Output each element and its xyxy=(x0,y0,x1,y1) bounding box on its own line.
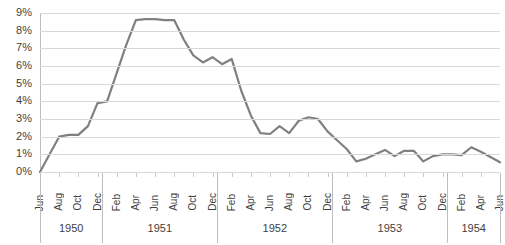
month-tick-mark xyxy=(78,173,79,177)
year-separator xyxy=(102,173,103,243)
month-tick-mark xyxy=(117,173,118,177)
month-tick-label: Aug xyxy=(54,193,64,211)
month-tick-label: Oct xyxy=(418,195,428,211)
month-tick-label: Aug xyxy=(284,193,294,211)
month-tick-mark xyxy=(347,173,348,177)
y-axis-tick-label: 2% xyxy=(16,131,32,142)
month-tick-mark xyxy=(385,173,386,177)
y-axis-tick-label: 1% xyxy=(16,148,32,159)
month-tick-mark xyxy=(136,173,137,177)
month-tick-mark xyxy=(289,173,290,177)
y-axis-tick-label: 0% xyxy=(16,166,32,177)
gridline xyxy=(40,154,500,155)
gridline xyxy=(40,13,500,14)
year-group-label: 1950 xyxy=(40,213,102,243)
month-tick-label: Dec xyxy=(323,193,333,211)
month-tick-label: Apr xyxy=(246,195,256,211)
series-line xyxy=(40,13,500,172)
year-group-label: 1952 xyxy=(217,213,332,243)
year-group-label: 1953 xyxy=(332,213,447,243)
month-tick-mark xyxy=(232,173,233,177)
month-tick-mark xyxy=(328,173,329,177)
month-tick-mark xyxy=(481,173,482,177)
chart-container: 0%1%2%3%4%5%6%7%8%9% JunAugOctDecFebAprJ… xyxy=(0,0,505,245)
gridline xyxy=(40,119,500,120)
month-tick-mark xyxy=(462,173,463,177)
month-tick-mark xyxy=(193,173,194,177)
y-axis: 0%1%2%3%4%5%6%7%8%9% xyxy=(0,0,36,180)
gridline xyxy=(40,48,500,49)
month-tick-label: Oct xyxy=(303,195,313,211)
year-axis: 19501951195219531954 xyxy=(40,213,500,243)
month-tick-mark xyxy=(423,173,424,177)
month-tick-mark xyxy=(174,173,175,177)
month-tick-mark xyxy=(251,173,252,177)
year-group-label: 1951 xyxy=(102,213,217,243)
month-tick-label: Jun xyxy=(265,195,275,211)
year-separator xyxy=(40,173,41,243)
month-tick-label: Dec xyxy=(93,193,103,211)
year-separator xyxy=(332,173,333,243)
month-tick-mark xyxy=(59,173,60,177)
month-tick-label: Dec xyxy=(438,193,448,211)
month-tick-mark xyxy=(308,173,309,177)
month-tick-label: Feb xyxy=(112,194,122,211)
gridline xyxy=(40,137,500,138)
month-tick-label: Jun xyxy=(380,195,390,211)
month-tick-mark xyxy=(98,173,99,177)
month-tick-label: Apr xyxy=(361,195,371,211)
month-axis: JunAugOctDecFebAprJunAugOctDecFebAprJunA… xyxy=(40,173,500,213)
month-tick-label: Aug xyxy=(169,193,179,211)
y-axis-tick-label: 6% xyxy=(16,60,32,71)
y-axis-tick-label: 5% xyxy=(16,78,32,89)
year-separator xyxy=(500,173,501,243)
y-axis-tick-label: 4% xyxy=(16,95,32,106)
month-tick-mark xyxy=(155,173,156,177)
month-tick-label: Apr xyxy=(131,195,141,211)
year-group-label: 1954 xyxy=(447,213,500,243)
gridline xyxy=(40,66,500,67)
y-axis-tick-label: 3% xyxy=(16,113,32,124)
month-tick-label: Dec xyxy=(208,193,218,211)
month-tick-label: Oct xyxy=(73,195,83,211)
month-tick-label: Oct xyxy=(188,195,198,211)
y-axis-tick-label: 8% xyxy=(16,25,32,36)
year-separator xyxy=(217,173,218,243)
month-tick-mark xyxy=(213,173,214,177)
y-axis-tick-label: 7% xyxy=(16,42,32,53)
month-tick-label: Feb xyxy=(227,194,237,211)
gridline xyxy=(40,84,500,85)
month-tick-label: Feb xyxy=(342,194,352,211)
month-tick-label: Jun xyxy=(150,195,160,211)
plot-area xyxy=(40,13,500,172)
year-separator xyxy=(447,173,448,243)
month-tick-mark xyxy=(270,173,271,177)
month-tick-label: Apr xyxy=(476,195,486,211)
month-tick-mark xyxy=(404,173,405,177)
y-axis-tick-label: 9% xyxy=(16,7,32,18)
month-tick-mark xyxy=(443,173,444,177)
month-tick-mark xyxy=(366,173,367,177)
gridline xyxy=(40,31,500,32)
month-tick-label: Feb xyxy=(457,194,467,211)
gridline xyxy=(40,101,500,102)
month-tick-label: Aug xyxy=(399,193,409,211)
